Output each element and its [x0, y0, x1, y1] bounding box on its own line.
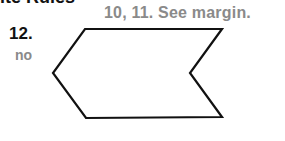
textbook-page-crop: ite Rules 10, 11. See margin. 12. no — [0, 0, 285, 141]
hexagon-shape — [53, 29, 222, 118]
chevron-hexagon-figure — [0, 0, 285, 141]
